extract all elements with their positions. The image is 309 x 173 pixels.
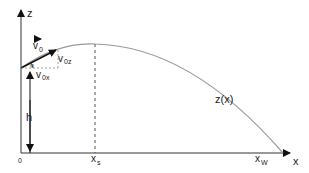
svg-text:x: x xyxy=(91,153,96,164)
curve-label: z(x) xyxy=(215,93,233,105)
origin-label: 0 xyxy=(18,157,22,164)
svg-text:0z: 0z xyxy=(64,58,72,65)
v0-label: v 0 xyxy=(33,39,43,53)
z-axis-label: z xyxy=(27,7,33,19)
svg-text:0: 0 xyxy=(39,46,43,53)
xw-label: x W xyxy=(255,153,268,166)
height-label: h xyxy=(26,111,32,123)
v0z-label: v 0z xyxy=(58,53,72,65)
trajectory-diagram: φ z x 0 v 0 v 0z v 0x z(x) h x s x W xyxy=(0,0,309,173)
svg-text:v: v xyxy=(33,40,38,51)
svg-text:0x: 0x xyxy=(42,74,50,81)
svg-text:W: W xyxy=(261,159,268,166)
x-axis-label: x xyxy=(293,155,299,167)
angle-symbol: φ xyxy=(30,62,34,68)
svg-text:v: v xyxy=(36,69,41,80)
xs-label: x s xyxy=(91,153,101,166)
svg-text:s: s xyxy=(97,159,101,166)
svg-text:v: v xyxy=(58,53,63,64)
v0x-label: v 0x xyxy=(36,69,50,81)
svg-text:x: x xyxy=(255,153,260,164)
